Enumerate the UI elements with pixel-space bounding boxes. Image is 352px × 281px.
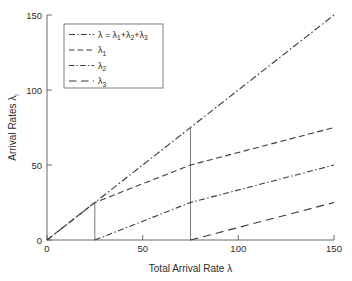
y-tick-label-2: 100 <box>26 85 42 96</box>
chart-figure: 0 50 100 150 0 50 100 150 Total Arrival … <box>0 0 352 281</box>
y-tick-label-1: 50 <box>31 160 42 171</box>
x-tick-label-0: 0 <box>44 243 49 254</box>
series-line-lambda3 <box>191 203 335 241</box>
y-axis-title: Arrival Rates λi <box>7 94 20 161</box>
x-axis-title: Total Arrival Rate λ <box>149 263 232 274</box>
series-line-lambda2 <box>95 165 334 240</box>
y-axis-title-sub: i <box>13 94 20 96</box>
legend-label-total: λ=λ1+λ2+λ3 <box>98 30 148 41</box>
x-tick-label-2: 100 <box>230 243 246 254</box>
chart-legend: λ=λ1+λ2+λ3 λ1 λ2 λ3 <box>64 24 163 88</box>
y-axis-title-main: Arrival Rates λ <box>7 96 18 161</box>
line-chart: 0 50 100 150 0 50 100 150 Total Arrival … <box>0 0 352 281</box>
x-tick-label-3: 150 <box>326 243 342 254</box>
y-tick-label-0: 0 <box>37 235 42 246</box>
y-tick-label-3: 150 <box>26 10 42 21</box>
x-tick-label-1: 50 <box>137 243 148 254</box>
svg-text:Arrival Rates λi: Arrival Rates λi <box>7 94 20 161</box>
